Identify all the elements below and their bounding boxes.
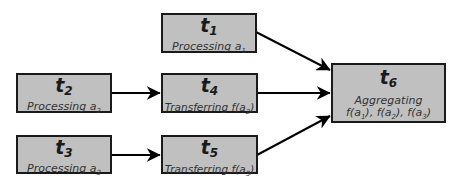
node-t5-desc: Transferring f(a3) (163, 163, 256, 180)
edge-t5-t6 (257, 116, 330, 155)
node-t5: t5 Transferring f(a3) (161, 135, 258, 174)
node-t3: t3 Processing a3 (16, 135, 112, 174)
node-t3-title: t3 (18, 138, 110, 163)
node-t5-title: t5 (163, 138, 256, 163)
node-t1: t1 Processing a1 (161, 13, 257, 53)
node-t3-desc: Processing a3 (18, 163, 110, 179)
node-t4-title: t4 (163, 76, 256, 101)
node-t4: t4 Transferring f(a2) (161, 73, 258, 113)
node-t1-desc: Processing a1 (163, 41, 255, 57)
node-t6-desc-line2: f(a1), f(a2), f(a3) (333, 107, 444, 123)
node-t2-title: t2 (18, 76, 110, 101)
edge-t1-t6 (256, 32, 330, 70)
node-t4-desc: Transferring f(a2) (163, 101, 256, 118)
node-t2-desc: Processing a2 (18, 101, 110, 117)
node-t1-title: t1 (163, 16, 255, 41)
node-t6: t6 Aggregating f(a1), f(a2), f(a3) (331, 63, 446, 123)
node-t6-title: t6 (333, 68, 444, 93)
node-t2: t2 Processing a2 (16, 73, 112, 113)
